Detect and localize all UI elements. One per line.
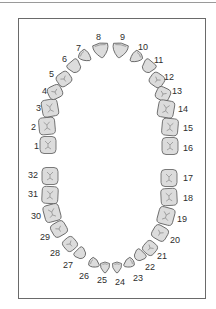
tooth-label-7: 7 (76, 43, 81, 53)
tooth-label-20: 20 (170, 235, 180, 245)
tooth-30 (42, 203, 62, 224)
tooth-14 (157, 99, 176, 119)
tooth-2 (38, 117, 55, 135)
tooth-label-26: 26 (79, 271, 89, 281)
upper-arch: 12345678910111213141516 (31, 32, 193, 155)
tooth-label-32: 32 (28, 170, 38, 180)
tooth-15 (161, 118, 178, 136)
tooth-17 (161, 170, 177, 187)
tooth-label-8: 8 (96, 32, 101, 42)
lower-arch: 32313029282726252423222120191817 (28, 168, 193, 288)
tooth-23 (122, 256, 136, 269)
tooth-26 (87, 256, 101, 269)
tooth-label-30: 30 (31, 211, 41, 221)
tooth-label-24: 24 (115, 277, 125, 287)
tooth-label-13: 13 (172, 86, 182, 96)
tooth-25 (100, 262, 109, 273)
tooth-label-17: 17 (183, 173, 193, 183)
tooth-label-12: 12 (164, 72, 174, 82)
tooth-label-29: 29 (40, 232, 50, 242)
tooth-31 (42, 186, 59, 204)
tooth-8 (92, 42, 110, 59)
tooth-label-9: 9 (120, 32, 125, 42)
tooth-19 (156, 206, 176, 227)
tooth-label-22: 22 (145, 262, 155, 272)
tooth-24 (112, 262, 121, 273)
tooth-label-2: 2 (31, 122, 36, 132)
tooth-label-21: 21 (157, 251, 167, 261)
tooth-label-14: 14 (178, 104, 188, 114)
tooth-label-19: 19 (177, 214, 187, 224)
tooth-label-18: 18 (183, 193, 193, 203)
tooth-16 (162, 138, 178, 155)
tooth-32 (42, 168, 58, 185)
tooth-label-1: 1 (34, 141, 39, 151)
tooth-label-25: 25 (97, 275, 107, 285)
tooth-label-10: 10 (138, 42, 148, 52)
tooth-label-3: 3 (36, 103, 41, 113)
tooth-1 (40, 137, 56, 154)
tooth-label-6: 6 (62, 54, 67, 64)
tooth-label-11: 11 (154, 55, 163, 65)
tooth-label-15: 15 (183, 123, 193, 133)
tooth-incisor-shape (87, 256, 101, 269)
tooth-18 (161, 188, 178, 206)
tooth-label-16: 16 (183, 143, 193, 153)
tooth-3 (41, 98, 60, 118)
tooth-label-4: 4 (42, 86, 47, 96)
tooth-incisor-shape (122, 256, 136, 269)
tooth-20 (150, 223, 170, 243)
dental-chart: 12345678910111213141516 3231302928272625… (0, 0, 216, 309)
tooth-9 (111, 42, 129, 59)
tooth-label-5: 5 (49, 69, 54, 79)
tooth-label-23: 23 (133, 273, 143, 283)
tooth-label-28: 28 (50, 248, 60, 258)
tooth-label-31: 31 (28, 189, 38, 199)
tooth-label-27: 27 (63, 260, 73, 270)
